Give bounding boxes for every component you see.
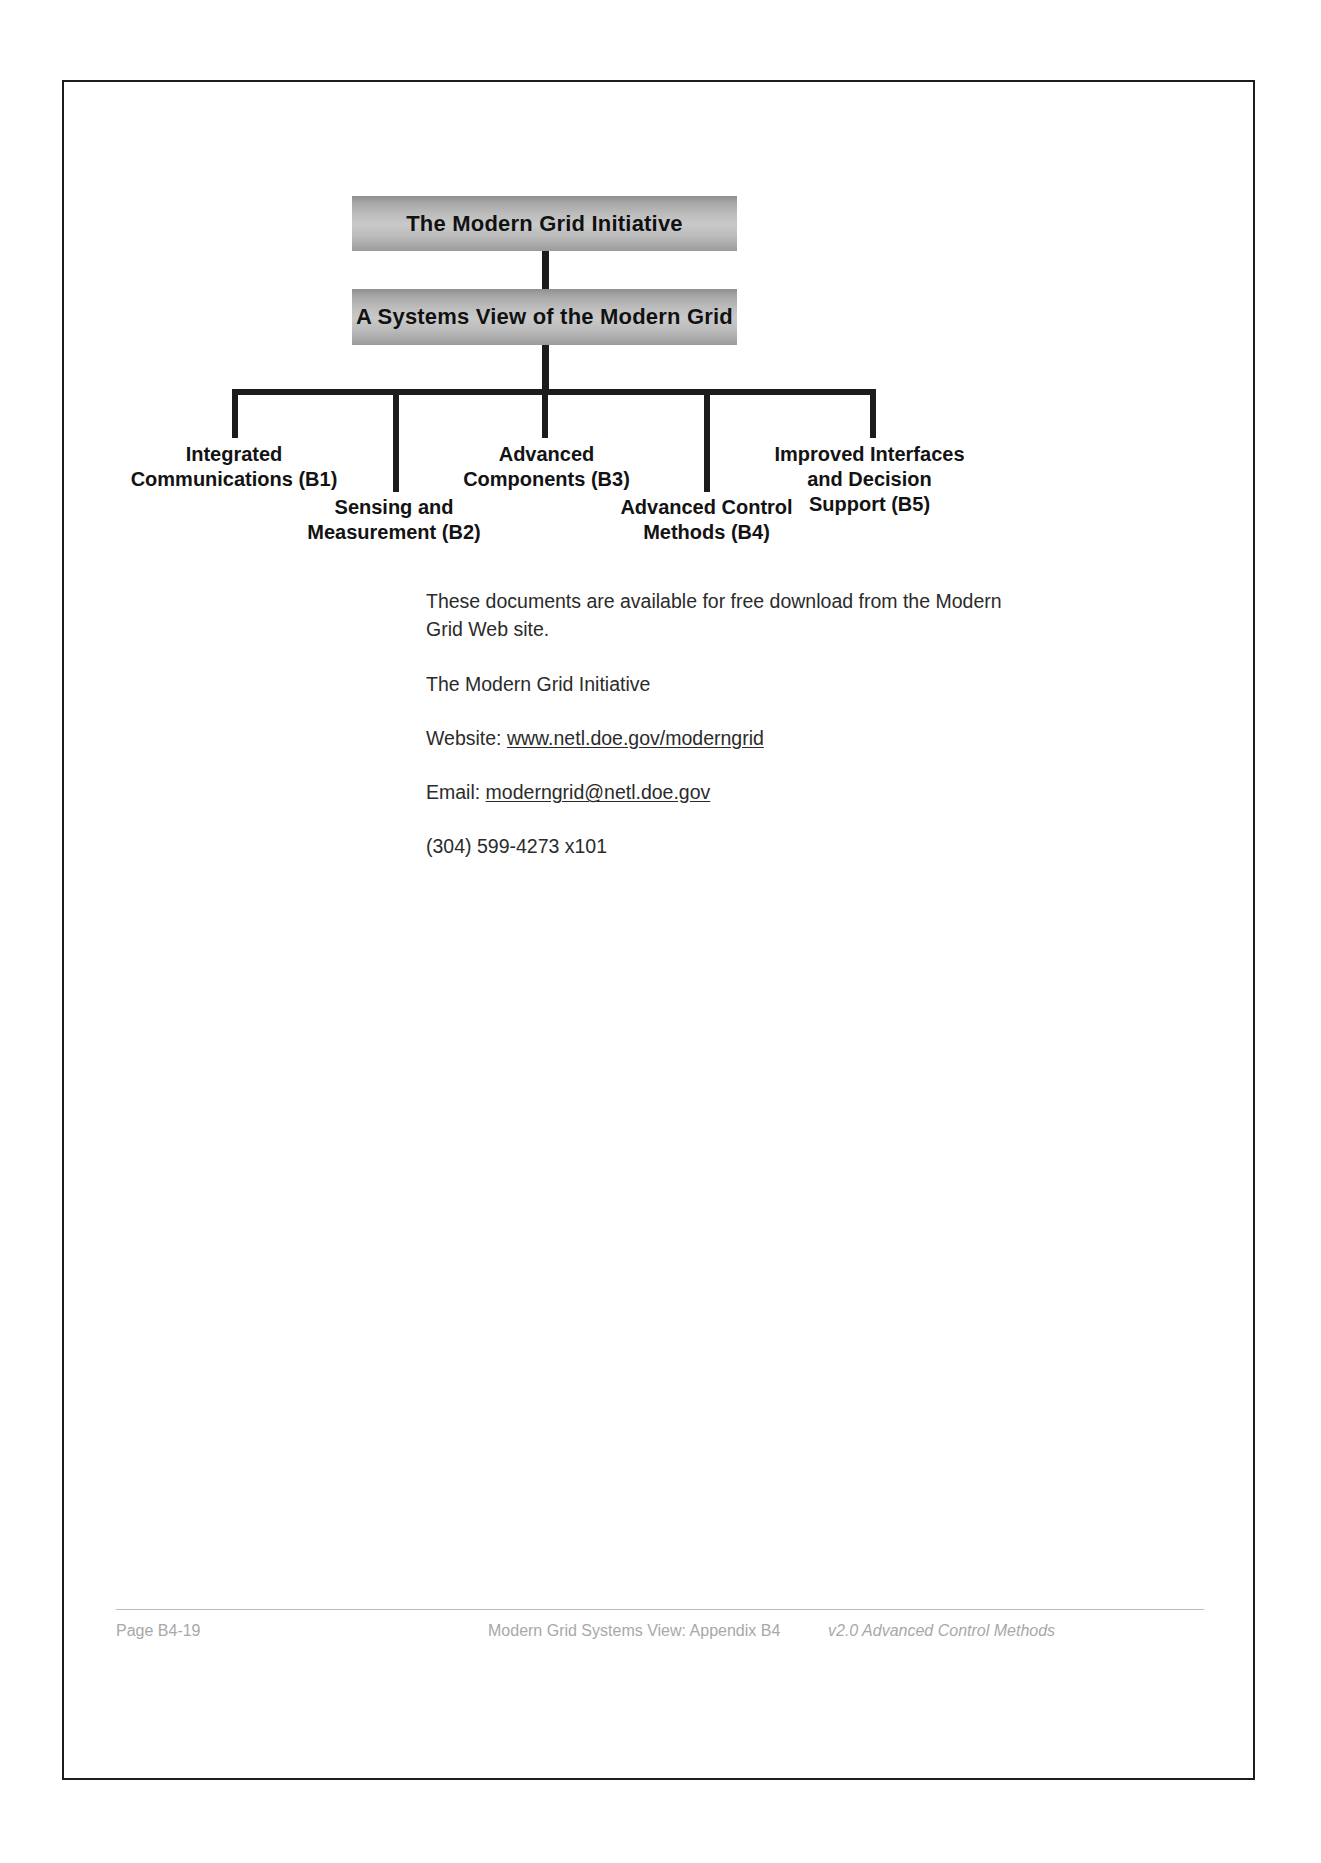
paragraph-phone: (304) 599-4273 x101 (426, 832, 1026, 860)
paragraph-org-name: The Modern Grid Initiative (426, 670, 1026, 698)
connector-horizontal-bus (232, 389, 875, 395)
footer-document-title: Modern Grid Systems View: Appendix B4 (488, 1622, 780, 1640)
paragraph-email: Email: moderngrid@netl.doe.gov (426, 778, 1026, 806)
body-text-block: These documents are available for free d… (426, 587, 1026, 887)
page-footer: Page B4-19 Modern Grid Systems View: App… (116, 1622, 1204, 1648)
website-label: Website: (426, 727, 507, 749)
email-label: Email: (426, 781, 486, 803)
footer-divider (116, 1609, 1204, 1610)
paragraph-intro: These documents are available for free d… (426, 587, 1026, 644)
connector-drop-b2 (393, 389, 399, 492)
diagram-node-systems-view: A Systems View of the Modern Grid (352, 289, 737, 345)
connector-drop-b1 (232, 389, 238, 438)
diagram-leaf-b3: Advanced Components (B3) (444, 442, 649, 492)
connector-drop-b5 (870, 389, 876, 438)
footer-version: v2.0 Advanced Control Methods (828, 1622, 1055, 1640)
diagram-leaf-b1: Integrated Communications (B1) (114, 442, 354, 492)
connector-drop-b3 (542, 389, 548, 438)
diagram-leaf-b2: Sensing and Measurement (B2) (279, 495, 509, 545)
connector-drop-b4 (704, 389, 710, 492)
footer-page-number: Page B4-19 (116, 1622, 201, 1640)
org-chart-diagram: The Modern Grid Initiative A Systems Vie… (64, 82, 1257, 552)
website-link[interactable]: www.netl.doe.gov/moderngrid (507, 727, 764, 749)
paragraph-website: Website: www.netl.doe.gov/moderngrid (426, 724, 1026, 752)
diagram-node-root: The Modern Grid Initiative (352, 196, 737, 251)
email-link[interactable]: moderngrid@netl.doe.gov (486, 781, 711, 803)
connector-second-to-bus (542, 345, 549, 394)
diagram-leaf-b5: Improved Interfaces and Decision Support… (752, 442, 987, 517)
document-page: The Modern Grid Initiative A Systems Vie… (62, 80, 1255, 1780)
connector-root-to-second (542, 251, 549, 289)
